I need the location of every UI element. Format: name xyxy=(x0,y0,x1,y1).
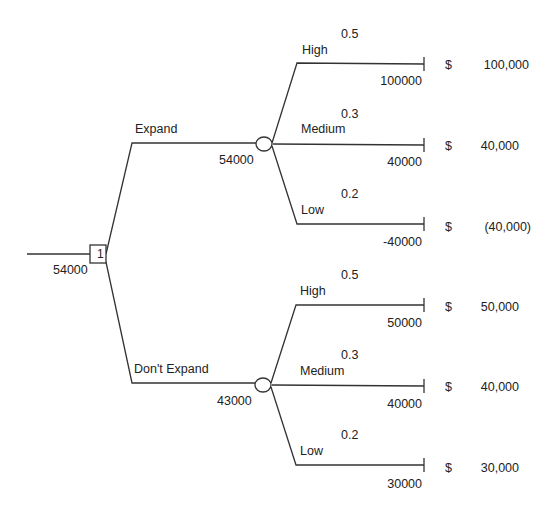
outcome-label-dont-expand-low: Low xyxy=(300,444,323,458)
display-dont-expand-medium: 40,000 xyxy=(470,380,519,394)
display-dont-expand-low: 30,000 xyxy=(470,461,519,475)
decision-node-label: 1 xyxy=(97,247,104,261)
outcome-label-dont-expand-high: High xyxy=(300,284,326,298)
currency-expand-medium: $ xyxy=(445,139,452,153)
prob-dont-expand-high: 0.5 xyxy=(341,268,358,282)
payoff-dont-expand-high: 50000 xyxy=(370,316,422,330)
display-expand-low: (40,000) xyxy=(470,220,531,234)
outcome-label-expand-medium: Medium xyxy=(301,122,345,136)
currency-expand-high: $ xyxy=(445,58,452,72)
display-dont-expand-high: 50,000 xyxy=(470,300,519,314)
decision-label-expand: Expand xyxy=(135,122,177,136)
payoff-dont-expand-medium: 40000 xyxy=(370,397,422,411)
outcome-label-dont-expand-medium: Medium xyxy=(300,364,344,378)
outcome-label-expand-high: High xyxy=(302,43,328,57)
payoff-expand-high: 100000 xyxy=(370,74,422,88)
chance-node-dont-expand xyxy=(255,378,271,392)
payoff-dont-expand-low: 30000 xyxy=(370,477,422,491)
decision-label-dont-expand: Don't Expand xyxy=(134,362,209,376)
display-expand-high: 100,000 xyxy=(470,58,529,72)
chance-value-dont-expand: 43000 xyxy=(217,394,252,408)
chance-node-expand xyxy=(256,137,272,151)
currency-dont-expand-medium: $ xyxy=(445,380,452,394)
prob-expand-medium: 0.3 xyxy=(341,107,358,121)
currency-expand-low: $ xyxy=(445,220,452,234)
prob-expand-low: 0.2 xyxy=(341,187,358,201)
outcome-label-expand-low: Low xyxy=(301,203,324,217)
chance-value-expand: 54000 xyxy=(219,153,254,167)
prob-expand-high: 0.5 xyxy=(341,27,358,41)
prob-dont-expand-medium: 0.3 xyxy=(341,348,358,362)
prob-dont-expand-low: 0.2 xyxy=(341,428,358,442)
currency-dont-expand-low: $ xyxy=(445,461,452,475)
root-value: 54000 xyxy=(53,263,88,277)
currency-dont-expand-high: $ xyxy=(445,300,452,314)
payoff-expand-medium: 40000 xyxy=(370,155,422,169)
payoff-expand-low: -40000 xyxy=(370,235,422,249)
decision-tree-lines xyxy=(0,0,550,516)
display-expand-medium: 40,000 xyxy=(470,139,519,153)
